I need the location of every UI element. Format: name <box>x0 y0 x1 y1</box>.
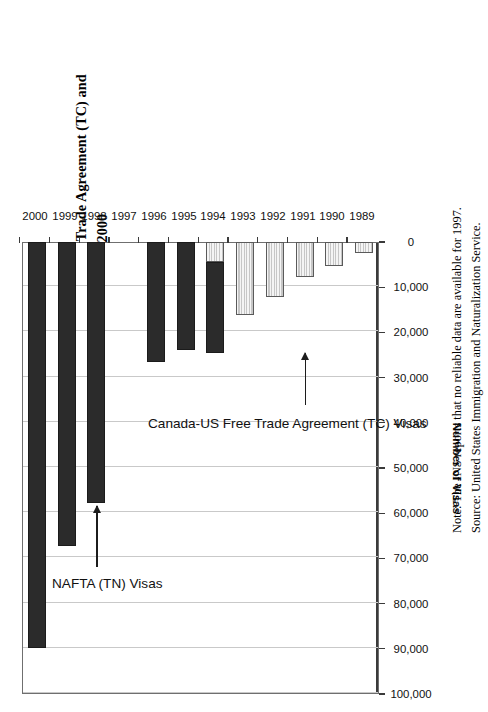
bar-tn-1996 <box>147 242 165 362</box>
bar-tn-1995 <box>177 242 195 350</box>
category-tick-1993 <box>227 237 228 243</box>
category-tick-1990 <box>317 237 318 243</box>
category-tick-1997 <box>108 237 109 243</box>
value-axis-label-20000: 20,000 <box>380 326 442 338</box>
gridline-20000 <box>23 330 378 331</box>
bar-tc-1991 <box>296 242 314 277</box>
figure-notes: Note: The INS reports that no reliable d… <box>448 203 488 533</box>
note-line: Note: The INS reports that no reliable d… <box>448 203 467 533</box>
value-axis-label-30000: 30,000 <box>380 372 442 384</box>
chart-container: 1989199019911992199319941995199619971998… <box>0 218 488 712</box>
category-tick-1989 <box>346 237 347 243</box>
category-tick-1995 <box>168 237 169 243</box>
value-axis-label-10000: 10,000 <box>380 281 442 293</box>
bar-tc-1990 <box>325 242 343 266</box>
value-axis-label-100000: 100,000 <box>380 688 442 700</box>
plot-area <box>22 242 379 694</box>
value-axis-label-70000: 70,000 <box>380 552 442 564</box>
value-axis-label-80000: 80,000 <box>380 598 442 610</box>
value-axis-label-50000: 50,000 <box>380 462 442 474</box>
category-tick-2000 <box>19 237 20 243</box>
gridline-80000 <box>23 602 378 603</box>
annotation-nafta-label: NAFTA (TN) Visas <box>52 576 163 591</box>
category-tick-1998 <box>79 237 80 243</box>
annotation-nafta-arrow <box>96 506 97 567</box>
category-tick-1991 <box>287 237 288 243</box>
annotation-cusfta-label: Canada-US Free Trade Agreement (TC) Visa… <box>148 416 427 431</box>
category-tick-1994 <box>198 237 199 243</box>
gridline-100000 <box>23 692 378 693</box>
gridline-50000 <box>23 466 378 467</box>
bar-tc-1994 <box>206 242 224 262</box>
gridline-10000 <box>23 285 378 286</box>
annotation-cusfta-arrow <box>305 353 306 405</box>
category-label-2000: 2000 <box>13 210 57 222</box>
bar-tn-1994 <box>206 262 224 352</box>
category-tick-1996 <box>138 237 139 243</box>
gridline-60000 <box>23 511 378 512</box>
category-tick-1999 <box>49 237 50 243</box>
value-axis-label-60000: 60,000 <box>380 507 442 519</box>
source-line: Source: United States Immigration and Na… <box>467 203 486 533</box>
value-axis-label-0: 0 <box>380 236 442 248</box>
bar-tc-1989 <box>355 242 373 253</box>
value-axis-baseline <box>376 243 378 693</box>
gridline-30000 <box>23 376 378 377</box>
bar-tc-1992 <box>266 242 284 297</box>
bar-tn-2000 <box>28 242 46 648</box>
bar-tn-1998 <box>87 242 105 503</box>
bar-tn-1999 <box>58 242 76 546</box>
bar-tc-1993 <box>236 242 254 315</box>
gridline-90000 <box>23 647 378 648</box>
value-axis-label-90000: 90,000 <box>380 643 442 655</box>
gridline-70000 <box>23 556 378 557</box>
category-tick-1992 <box>257 237 258 243</box>
